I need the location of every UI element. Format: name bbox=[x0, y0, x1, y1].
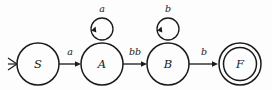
transition-b-to-f: b bbox=[189, 46, 218, 67]
state-s[interactable]: S bbox=[17, 43, 59, 85]
transition-a-to-b: bb bbox=[123, 46, 147, 67]
state-a[interactable]: A bbox=[81, 43, 123, 85]
state-b[interactable]: B bbox=[147, 43, 189, 85]
start-arrow-icon bbox=[8, 58, 17, 70]
self-loop-a: a bbox=[91, 3, 113, 41]
self-loop-label-a: a bbox=[99, 3, 105, 14]
state-s-label: S bbox=[34, 57, 42, 71]
transition-label-b-f: b bbox=[201, 46, 207, 57]
state-a-label: A bbox=[97, 57, 106, 71]
state-f-label: F bbox=[235, 57, 245, 71]
self-loop-label-b: b bbox=[165, 3, 171, 14]
automaton-diagram: a bb b a b S bbox=[0, 0, 272, 90]
self-loop-b: b bbox=[157, 3, 179, 41]
state-b-label: B bbox=[163, 57, 172, 71]
automaton-diagram-canvas: a bb b a b S bbox=[0, 0, 272, 90]
transition-s-to-a: a bbox=[59, 46, 81, 67]
transition-label-a-b: bb bbox=[129, 46, 141, 57]
transition-label-s-a: a bbox=[67, 46, 73, 57]
state-f-accepting[interactable]: F bbox=[219, 43, 261, 85]
